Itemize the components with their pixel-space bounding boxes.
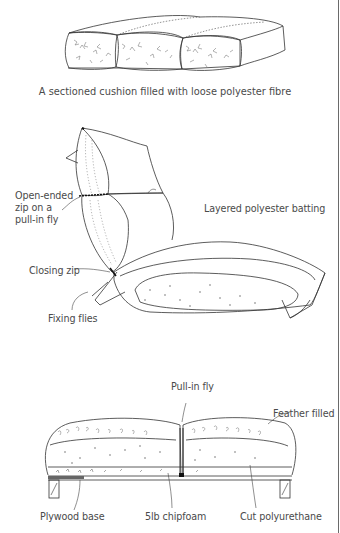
label-chipfoam: 5lb chipfoam [145, 511, 206, 523]
seat-back-cushion-drawing [62, 128, 325, 318]
sectioned-cushion-drawing [65, 15, 285, 70]
label-fixing-flies: Fixing flies [48, 313, 97, 325]
label-plywood-base: Plywood base [40, 511, 105, 523]
label-zip-line-1: Open-ended [15, 190, 73, 202]
label-feather-filled: Feather filled [273, 408, 334, 420]
label-layered-batting: Layered polyester batting [204, 203, 325, 215]
label-zip-line-3: pull-in fly [15, 214, 58, 226]
label-pull-in-fly: Pull-in fly [171, 381, 214, 393]
label-cut-polyurethane: Cut polyurethane [240, 511, 322, 523]
figure-caption-sectioned-cushion: A sectioned cushion filled with loose po… [0, 86, 330, 97]
label-closing-zip: Closing zip [29, 265, 80, 277]
label-zip-line-2: zip on a [15, 202, 52, 214]
feather-cushion-section-drawing [45, 403, 296, 510]
